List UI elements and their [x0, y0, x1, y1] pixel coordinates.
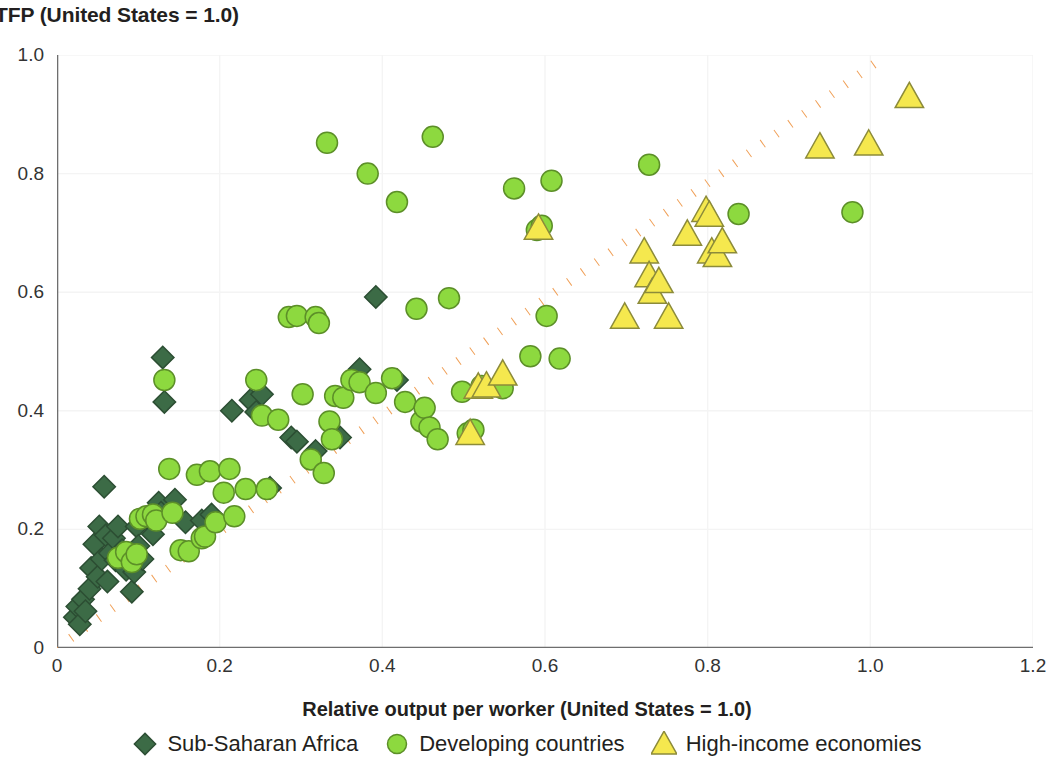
data-point: [427, 429, 448, 450]
data-point: [308, 313, 329, 334]
data-point: [235, 479, 256, 500]
data-point: [357, 163, 378, 184]
data-point: [489, 360, 517, 385]
data-point: [256, 479, 277, 500]
data-point: [292, 384, 313, 405]
x-axis-title: Relative output per worker (United State…: [0, 698, 1054, 721]
data-point: [221, 400, 243, 422]
data-point: [317, 132, 338, 153]
data-point: [549, 348, 570, 369]
series-developing-countries: [108, 126, 863, 572]
data-point: [213, 482, 234, 503]
data-point: [313, 463, 334, 484]
data-point: [842, 202, 863, 223]
y-tick-label: 0.6: [0, 281, 44, 303]
data-point: [422, 126, 443, 147]
chart-title: TFP (United States = 1.0): [0, 3, 239, 27]
data-point: [651, 731, 677, 754]
data-point: [93, 475, 115, 497]
x-tick-label: 0: [52, 655, 63, 677]
data-point: [135, 733, 156, 754]
data-point: [639, 154, 660, 175]
data-point: [365, 286, 387, 308]
legend-item-developing-countries[interactable]: Developing countries: [384, 731, 624, 757]
data-point: [536, 305, 557, 326]
plot-area: [57, 55, 1033, 648]
data-point: [126, 544, 147, 565]
data-point: [395, 391, 416, 412]
data-point: [154, 369, 175, 390]
diamond-marker-icon: [132, 731, 158, 757]
data-markers: [64, 82, 924, 635]
data-point: [321, 429, 342, 450]
data-point: [268, 409, 289, 430]
data-point: [121, 580, 143, 602]
y-axis-tick-labels: 00.20.40.60.81.0: [0, 55, 44, 648]
x-tick-label: 0.4: [369, 655, 395, 677]
y-tick-label: 0.2: [0, 518, 44, 540]
data-point: [541, 170, 562, 191]
legend-label: High-income economies: [686, 731, 922, 757]
data-point: [382, 368, 403, 389]
x-axis-tick-labels: 00.20.40.60.81.01.2: [57, 655, 1033, 683]
scatter-plot-svg: [57, 55, 1033, 648]
data-point: [205, 512, 226, 533]
data-point: [224, 506, 245, 527]
chart-legend: Sub-Saharan AfricaDeveloping countriesHi…: [0, 731, 1054, 757]
data-point: [388, 735, 407, 754]
data-point: [219, 458, 240, 479]
data-point: [159, 458, 180, 479]
legend-item-high-income-economies[interactable]: High-income economies: [651, 731, 922, 757]
legend-label: Sub-Saharan Africa: [167, 731, 358, 757]
data-point: [806, 133, 834, 158]
triangle-marker-icon: [651, 731, 677, 757]
data-point: [406, 298, 427, 319]
circle-marker-icon: [384, 731, 410, 757]
data-point: [162, 502, 183, 523]
y-tick-label: 0.8: [0, 163, 44, 185]
data-point: [895, 82, 923, 107]
data-point: [504, 178, 525, 199]
series-high-income-economies: [456, 82, 924, 444]
legend-label: Developing countries: [419, 731, 624, 757]
data-point: [414, 397, 435, 418]
x-tick-label: 0.8: [694, 655, 720, 677]
data-point: [152, 346, 174, 368]
data-point: [728, 203, 749, 224]
data-point: [654, 303, 682, 328]
x-tick-label: 0.2: [206, 655, 232, 677]
legend-item-sub-saharan-africa[interactable]: Sub-Saharan Africa: [132, 731, 358, 757]
data-point: [386, 192, 407, 213]
y-tick-label: 0.4: [0, 400, 44, 422]
data-point: [246, 369, 267, 390]
data-point: [520, 346, 541, 367]
data-point: [630, 238, 658, 263]
y-tick-label: 0: [0, 637, 44, 659]
gridlines: [57, 55, 1033, 648]
data-point: [855, 130, 883, 155]
data-point: [286, 305, 307, 326]
data-point: [199, 461, 220, 482]
y-tick-label: 1.0: [0, 44, 44, 66]
data-point: [153, 391, 175, 413]
x-tick-label: 1.2: [1020, 655, 1046, 677]
x-tick-label: 0.6: [532, 655, 558, 677]
data-point: [611, 303, 639, 328]
x-tick-label: 1.0: [857, 655, 883, 677]
data-point: [439, 288, 460, 309]
chart-figure: TFP (United States = 1.0) 00.20.40.60.81…: [0, 0, 1054, 762]
data-point: [365, 383, 386, 404]
